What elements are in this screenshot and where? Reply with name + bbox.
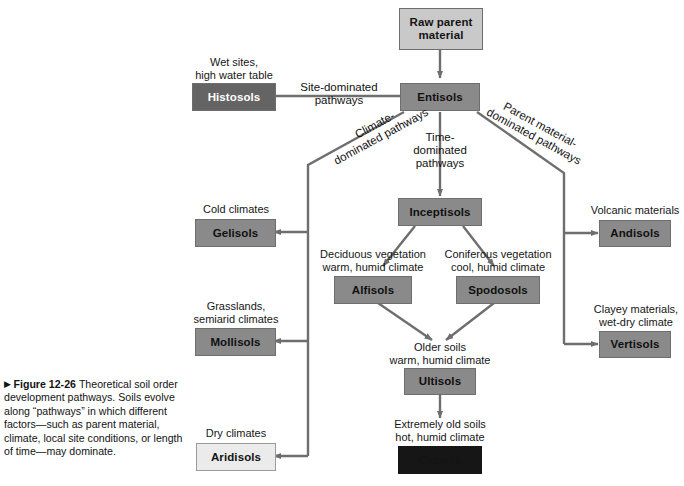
caption-marker-icon: ▶ <box>4 379 14 389</box>
node-alfisols[interactable]: Alfisols <box>334 276 412 304</box>
condition-label-vertisols: Clayey materials, wet-dry climate <box>578 303 684 328</box>
condition-label-alfisols: Deciduous vegetation warm, humid climate <box>311 248 435 273</box>
node-histosols[interactable]: Histosols <box>192 83 276 111</box>
node-inceptisols[interactable]: Inceptisols <box>398 198 482 226</box>
node-andisols[interactable]: Andisols <box>599 220 671 247</box>
condition-label-ultisols: Older soils warm, humid climate <box>380 341 500 366</box>
edge-spodosols-to-ultisols <box>446 303 494 340</box>
pathway-label-parent-material-dominated: Parent material- dominated pathways <box>470 87 604 176</box>
condition-label-aridisols: Dry climates <box>188 427 284 440</box>
node-aridisols[interactable]: Aridisols <box>196 443 276 471</box>
node-gelisols[interactable]: Gelisols <box>195 219 276 247</box>
node-oxisols[interactable]: Oxisols <box>398 446 482 474</box>
node-raw-parent-material[interactable]: Raw parent material <box>399 8 483 50</box>
condition-label-spodosols: Coniferous vegetation cool, humid climat… <box>436 248 560 273</box>
node-vertisols[interactable]: Vertisols <box>599 331 671 358</box>
condition-label-andisols: Volcanic materials <box>575 204 684 217</box>
edge-alfisols-to-ultisols <box>378 303 432 340</box>
node-ultisols[interactable]: Ultisols <box>404 368 476 395</box>
figure-caption: ▶ Figure 12-26 Theoretical soil order de… <box>4 378 190 458</box>
condition-label-oxisols: Extremely old soils hot, humid climate <box>376 418 504 443</box>
condition-label-histosols: Wet sites, high water table <box>176 56 292 81</box>
condition-label-gelisols: Cold climates <box>186 203 286 216</box>
pathway-label-site-dominated: Site-dominated pathways <box>284 81 394 107</box>
figure-number: Figure 12-26 <box>14 378 79 390</box>
node-mollisols[interactable]: Mollisols <box>195 328 276 356</box>
node-spodosols[interactable]: Spodosols <box>456 276 540 304</box>
condition-label-mollisols: Grasslands, semiarid climates <box>183 300 289 325</box>
pathway-label-time-dominated: Time- dominated pathways <box>400 131 480 170</box>
